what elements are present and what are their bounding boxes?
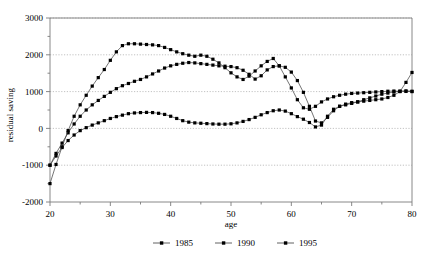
data-point-1985-43 xyxy=(187,121,190,124)
data-point-1990-21 xyxy=(54,152,57,155)
data-point-1985-47 xyxy=(211,122,214,125)
chart-container: -2000-10000100020003000 20304050607080 r… xyxy=(0,0,429,259)
data-point-1990-72 xyxy=(362,100,365,103)
legend-item-1990[interactable]: 1990 xyxy=(215,238,256,248)
data-point-1990-61 xyxy=(296,79,299,82)
data-point-1990-80 xyxy=(410,71,413,74)
data-point-1990-51 xyxy=(235,66,238,69)
data-point-1990-54 xyxy=(254,77,257,80)
data-point-1995-35 xyxy=(139,43,142,46)
data-point-1990-76 xyxy=(386,96,389,99)
legend-item-1985[interactable]: 1985 xyxy=(153,238,194,248)
data-point-1995-28 xyxy=(97,76,100,79)
data-point-1995-40 xyxy=(169,48,172,51)
data-point-1990-67 xyxy=(332,109,335,112)
data-point-1995-51 xyxy=(235,75,238,78)
data-point-1995-27 xyxy=(91,84,94,87)
data-point-1985-39 xyxy=(163,113,166,116)
data-point-1985-31 xyxy=(115,115,118,118)
data-point-1995-33 xyxy=(127,42,130,45)
legend-label-1995: 1995 xyxy=(299,238,318,248)
x-axis-title: age xyxy=(225,219,238,229)
data-point-1990-36 xyxy=(145,75,148,78)
data-point-1990-50 xyxy=(229,65,232,68)
y-tick-label-3000: 3000 xyxy=(25,13,44,23)
data-point-1990-31 xyxy=(115,87,118,90)
data-point-1995-53 xyxy=(248,75,251,78)
data-point-1990-73 xyxy=(368,99,371,102)
data-point-1990-65 xyxy=(320,121,323,124)
data-point-1990-24 xyxy=(73,122,76,125)
data-point-1995-49 xyxy=(223,66,226,69)
data-point-1985-40 xyxy=(169,115,172,118)
data-point-1990-69 xyxy=(344,103,347,106)
data-point-1995-77 xyxy=(392,89,395,92)
data-point-1990-43 xyxy=(187,61,190,64)
x-axis-tick-labels: 20304050607080 xyxy=(46,209,418,219)
data-point-1985-58 xyxy=(278,108,281,111)
data-point-1995-25 xyxy=(79,103,82,106)
data-point-1990-48 xyxy=(217,64,220,67)
data-point-1995-60 xyxy=(290,86,293,89)
data-point-1995-73 xyxy=(368,91,371,94)
data-point-1985-33 xyxy=(127,112,130,115)
data-point-1985-41 xyxy=(175,117,178,120)
data-point-1995-24 xyxy=(73,115,76,118)
data-point-1995-34 xyxy=(133,42,136,45)
data-point-1990-77 xyxy=(392,94,395,97)
data-point-1995-78 xyxy=(398,90,401,93)
data-point-1985-36 xyxy=(145,111,148,114)
data-point-1990-63 xyxy=(308,105,311,108)
data-point-1990-45 xyxy=(199,62,202,65)
data-point-1990-29 xyxy=(103,95,106,98)
data-point-1995-36 xyxy=(145,43,148,46)
series-line-1990 xyxy=(50,63,412,166)
data-point-1995-72 xyxy=(362,91,365,94)
data-point-1995-70 xyxy=(350,92,353,95)
data-point-1995-41 xyxy=(175,50,178,53)
data-point-1990-42 xyxy=(181,62,184,65)
y-axis-tick-labels: -2000-10000100020003000 xyxy=(22,13,44,207)
y-axis-title: residual saving xyxy=(5,87,15,142)
data-point-1995-61 xyxy=(296,98,299,101)
y-tick-label--2000: -2000 xyxy=(22,197,43,207)
data-point-1985-27 xyxy=(91,123,94,126)
legend-item-1995[interactable]: 1995 xyxy=(277,238,318,248)
data-point-1990-75 xyxy=(380,97,383,100)
data-point-1990-70 xyxy=(350,101,353,104)
data-point-1995-56 xyxy=(266,60,269,63)
y-tick-label-2000: 2000 xyxy=(25,50,44,60)
data-point-1990-56 xyxy=(266,68,269,71)
data-point-1995-31 xyxy=(115,50,118,53)
data-point-1985-24 xyxy=(73,133,76,136)
data-point-1995-29 xyxy=(103,68,106,71)
data-point-1995-47 xyxy=(211,58,214,61)
data-point-1990-55 xyxy=(260,74,263,77)
series-1995 xyxy=(48,42,413,185)
x-tick-label-30: 30 xyxy=(106,209,116,219)
data-point-1985-54 xyxy=(254,116,257,119)
series-line-1995 xyxy=(50,44,412,184)
tick-marks xyxy=(46,18,412,206)
data-point-1990-25 xyxy=(79,115,82,118)
data-point-1990-30 xyxy=(109,91,112,94)
data-point-1990-26 xyxy=(85,108,88,111)
x-tick-label-50: 50 xyxy=(227,209,237,219)
legend-marker-1995 xyxy=(284,241,287,244)
data-point-1995-76 xyxy=(386,90,389,93)
legend-label-1985: 1985 xyxy=(175,238,194,248)
data-point-1990-47 xyxy=(211,64,214,67)
data-point-1995-59 xyxy=(284,75,287,78)
data-point-1995-42 xyxy=(181,52,184,55)
chart-legend: 198519901995 xyxy=(153,238,318,248)
data-point-1985-35 xyxy=(139,111,142,114)
data-point-1995-37 xyxy=(151,43,154,46)
data-point-1995-21 xyxy=(54,163,57,166)
x-tick-label-70: 70 xyxy=(347,209,357,219)
data-point-1985-56 xyxy=(266,111,269,114)
data-point-1995-55 xyxy=(260,64,263,67)
data-point-1990-40 xyxy=(169,64,172,67)
data-point-1990-39 xyxy=(163,66,166,69)
y-tick-label-1000: 1000 xyxy=(25,87,44,97)
data-point-1995-57 xyxy=(272,57,275,60)
